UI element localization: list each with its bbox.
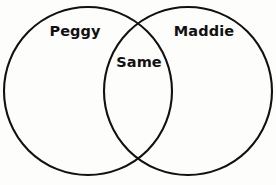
- venn-diagram: Peggy Maddie Same: [0, 0, 276, 185]
- right-set-label: Maddie: [174, 24, 234, 39]
- left-set-label: Peggy: [49, 24, 100, 39]
- venn-circles-graphic: [0, 0, 276, 185]
- intersection-label: Same: [116, 55, 162, 70]
